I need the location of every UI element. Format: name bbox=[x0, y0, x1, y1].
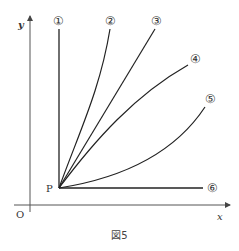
figure-caption: 図5 bbox=[0, 227, 239, 242]
diagram: y x O P ① ② ③ ④ ⑤ ⑥ bbox=[0, 0, 239, 251]
curve-4-label: ④ bbox=[190, 52, 201, 66]
y-axis-label: y bbox=[17, 19, 25, 30]
curve-5-label: ⑤ bbox=[205, 92, 216, 106]
origin-label: O bbox=[16, 209, 24, 220]
curve-5 bbox=[59, 107, 205, 188]
curve-6-label: ⑥ bbox=[207, 181, 218, 195]
point-p-label: P bbox=[46, 183, 53, 194]
curve-2 bbox=[59, 29, 110, 188]
curve-2-label: ② bbox=[105, 14, 116, 28]
curve-1-label: ① bbox=[53, 14, 64, 28]
curve-3-label: ③ bbox=[151, 14, 162, 28]
curve-4 bbox=[59, 65, 188, 188]
curve-3 bbox=[59, 29, 155, 188]
x-axis-label: x bbox=[217, 211, 223, 222]
